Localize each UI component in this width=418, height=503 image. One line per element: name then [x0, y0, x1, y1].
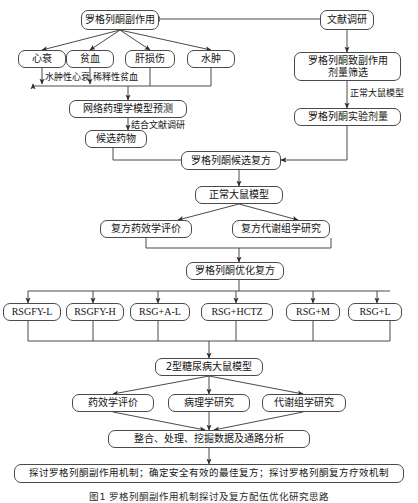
node-heart-failure[interactable]: 心衰 [18, 50, 66, 68]
node-experimental-dose[interactable]: 罗格列酮实验剂量 [294, 108, 401, 126]
node-candidate-drugs[interactable]: 候选药物 [85, 130, 147, 148]
node-formula-efficacy[interactable]: 复方药效学评价 [100, 220, 192, 238]
edge-label-combined-literature: 结合文献调研 [131, 118, 185, 131]
node-anemia[interactable]: 贫血 [66, 50, 114, 68]
node-t2dm-model[interactable]: 2型糖尿病大鼠模型 [155, 358, 263, 376]
node-conclusion[interactable]: 探讨罗格列酮副作用机制；确定安全有效的最佳复方；探讨罗格列酮复方疗效机制 [14, 464, 404, 483]
node-normal-rat-model[interactable]: 正常大鼠模型 [195, 186, 283, 204]
node-candidate-formula[interactable]: 罗格列酮候选复方 [181, 151, 281, 170]
node-dose-screening[interactable]: 罗格列酮致副作用 剂量筛选 [294, 52, 401, 81]
node-metabolomics-study[interactable]: 代谢组学研究 [262, 394, 346, 412]
node-edema[interactable]: 水肿 [187, 50, 235, 68]
node-group-rsg-l[interactable]: RSG+L [348, 303, 402, 321]
node-liver-injury[interactable]: 肝损伤 [125, 50, 175, 68]
node-group-rsg-a-l[interactable]: RSG+A-L [130, 303, 190, 321]
node-group-rsgfy-h[interactable]: RSGFY-H [66, 303, 124, 321]
node-network-pharmacology[interactable]: 网络药理学模型预测 [69, 100, 187, 118]
node-data-integration[interactable]: 整合、处理、挖掘数据及通路分析 [108, 430, 310, 448]
node-rsg-side-effects[interactable]: 罗格列酮副作用 [81, 10, 159, 30]
edge-label-dilutional-anemia: 稀释性贫血 [93, 70, 138, 83]
node-group-rsg-hctz[interactable]: RSG+HCTZ [201, 303, 273, 321]
node-literature-review[interactable]: 文献调研 [320, 10, 374, 30]
node-efficacy-eval[interactable]: 药效学评价 [72, 394, 154, 412]
node-formula-metabolomics[interactable]: 复方代谢组学研究 [232, 220, 330, 238]
node-group-rsg-m[interactable]: RSG+M [286, 303, 340, 321]
figure-caption: 图1 罗格列酮副作用机制探讨及复方配伍优化研究思路 [0, 489, 418, 503]
flowchart-canvas: 罗格列酮副作用 文献调研 心衰 贫血 肝损伤 水肿 罗格列酮致副作用 剂量筛选 … [0, 0, 418, 503]
edge-label-normal-rat-model: 正常大鼠模型 [350, 86, 404, 99]
edge-label-edematous-heart-failure: 水肿性心衰 [45, 70, 90, 83]
node-optimized-formula[interactable]: 罗格列酮优化复方 [186, 262, 284, 280]
node-group-rsgfy-l[interactable]: RSGFY-L [3, 303, 61, 321]
node-pathology-study[interactable]: 病理学研究 [168, 394, 250, 412]
